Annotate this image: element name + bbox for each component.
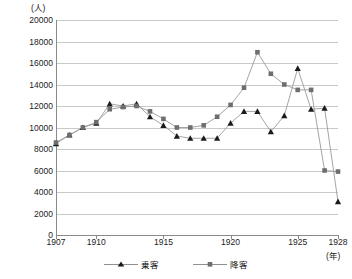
y-tick-label: 16000: [29, 58, 53, 68]
y-tick-label: 4000: [34, 187, 53, 197]
x-tick-label: 1928: [329, 237, 348, 247]
y-tick-label: 6000: [34, 166, 53, 176]
y-tick-label: 14000: [29, 80, 53, 90]
x-tick-label: 1910: [87, 237, 106, 247]
y-tick-label: 8000: [34, 144, 53, 154]
data-point: [201, 123, 206, 128]
legend-marker-square-icon: [193, 260, 227, 269]
data-point: [242, 85, 247, 90]
data-point: [134, 104, 139, 109]
y-tick-label: 20000: [29, 15, 53, 25]
x-tick-label: 1907: [47, 237, 66, 247]
data-point: [107, 107, 112, 112]
data-point: [175, 125, 180, 130]
data-point: [309, 88, 314, 93]
y-tick-label: 18000: [29, 37, 53, 47]
data-point: [335, 199, 341, 205]
data-point: [81, 125, 86, 130]
data-point: [121, 105, 126, 110]
y-axis-tick-labels: 0200040006000800010000120001400016000180…: [0, 20, 53, 235]
x-tick-label: 1925: [288, 237, 307, 247]
data-point: [54, 140, 59, 145]
legend-label-0: 乗客: [141, 258, 159, 270]
legend-item-1: 降客: [193, 258, 248, 270]
data-point: [148, 109, 153, 114]
plot-area: [56, 20, 338, 235]
x-tick-label: 1920: [221, 237, 240, 247]
data-point: [295, 65, 301, 71]
data-point: [295, 88, 300, 93]
data-point: [321, 105, 327, 111]
x-axis-tick-labels: 190719101915192019251928: [56, 237, 338, 251]
x-tick-label: 1915: [154, 237, 173, 247]
data-point: [282, 82, 287, 87]
legend-item-0: 乗客: [104, 258, 159, 270]
data-point: [107, 101, 113, 107]
y-tick-label: 10000: [29, 123, 53, 133]
data-point: [188, 125, 193, 130]
data-point: [269, 71, 274, 76]
line-chart: (人) (年) 02000400060008000100001200014000…: [0, 0, 352, 279]
data-point: [336, 169, 341, 174]
y-tick-label: 12000: [29, 101, 53, 111]
data-point: [322, 168, 327, 173]
legend-marker-triangle-icon: [104, 260, 138, 269]
legend-label-1: 降客: [230, 258, 248, 270]
data-point: [161, 117, 166, 122]
y-axis-unit-label: (人): [31, 1, 45, 13]
y-tick-label: 2000: [34, 209, 53, 219]
data-point: [281, 113, 287, 119]
data-point: [160, 122, 166, 128]
series-layer: [56, 20, 338, 235]
x-axis-line: [56, 235, 338, 236]
data-point: [228, 103, 233, 108]
chart-legend: 乗客 降客: [0, 256, 352, 272]
data-point: [255, 50, 260, 55]
data-point: [215, 114, 220, 119]
data-point: [94, 120, 99, 125]
data-point: [67, 133, 72, 138]
